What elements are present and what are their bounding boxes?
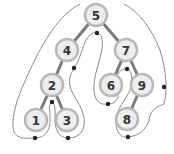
node-7: 7: [115, 39, 137, 61]
tree-diagram: 5 4 7 2 6 9 1: [0, 0, 174, 154]
node-label: 3: [63, 114, 71, 128]
node-label: 1: [32, 114, 40, 128]
null-dot: [33, 136, 37, 140]
node-5: 5: [85, 4, 107, 26]
null-dot: [50, 100, 54, 104]
null-dot: [125, 67, 129, 71]
null-dot: [106, 102, 110, 106]
node-8: 8: [116, 108, 138, 130]
null-dot: [162, 85, 166, 89]
node-1: 1: [25, 109, 47, 131]
node-9: 9: [131, 74, 153, 96]
node-2: 2: [41, 74, 63, 96]
node-label: 9: [138, 79, 146, 93]
node-6: 6: [100, 74, 122, 96]
null-dot: [95, 31, 99, 35]
node-label: 7: [122, 44, 130, 58]
node-label: 6: [107, 79, 115, 93]
node-3: 3: [56, 109, 78, 131]
tree-svg: 5 4 7 2 6 9 1: [0, 0, 174, 154]
node-4: 4: [56, 39, 78, 61]
null-dot: [72, 66, 76, 70]
node-label: 8: [123, 113, 131, 127]
null-dot: [126, 135, 130, 139]
null-dot: [66, 136, 70, 140]
node-label: 4: [63, 44, 71, 58]
node-label: 2: [48, 79, 56, 93]
node-label: 5: [92, 9, 100, 23]
